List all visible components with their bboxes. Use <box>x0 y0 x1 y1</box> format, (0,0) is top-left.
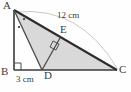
measurement-label-base-segment: 3 cm <box>16 75 34 84</box>
vertex-label-d: D <box>44 70 52 81</box>
angle-dot-a-lower-icon <box>18 26 20 28</box>
angle-dot-a-upper-icon <box>23 18 25 20</box>
vertex-label-c: C <box>119 64 126 75</box>
right-angle-marker-b <box>14 63 21 70</box>
vertex-label-b: B <box>1 66 8 77</box>
vertex-label-e: E <box>60 24 67 35</box>
measurement-label-hypotenuse: 12 cm <box>57 11 79 20</box>
vertex-label-a: A <box>3 0 11 11</box>
geometry-figure: A B C D E 12 cm 3 cm <box>0 0 131 92</box>
